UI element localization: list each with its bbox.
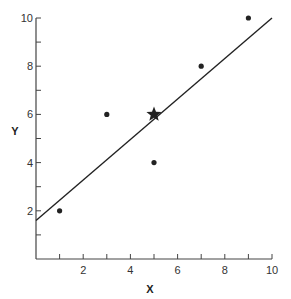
scatter-chart: 246810246810 X Y: [0, 0, 291, 299]
axes: [36, 18, 272, 259]
ticks: 246810246810: [21, 12, 278, 276]
y-tick-label: 4: [27, 157, 33, 169]
data-points: [57, 15, 251, 213]
data-point-marker: [151, 160, 156, 165]
x-tick-label: 10: [266, 264, 278, 276]
x-tick-label: 8: [222, 264, 228, 276]
regression-line: [36, 18, 272, 220]
y-tick-label: 6: [27, 108, 33, 120]
y-tick-label: 2: [27, 205, 33, 217]
data-point-marker: [104, 112, 109, 117]
x-tick-label: 6: [175, 264, 181, 276]
data-point-marker: [246, 15, 251, 20]
data-point-marker: [57, 208, 62, 213]
x-tick-label: 2: [80, 264, 86, 276]
y-axis-label: Y: [11, 125, 19, 137]
x-tick-label: 4: [127, 264, 133, 276]
y-tick-label: 10: [21, 12, 33, 24]
y-tick-label: 8: [27, 60, 33, 72]
x-axis-label: X: [146, 283, 154, 295]
data-point-marker: [199, 64, 204, 69]
fit-line: [36, 18, 272, 220]
